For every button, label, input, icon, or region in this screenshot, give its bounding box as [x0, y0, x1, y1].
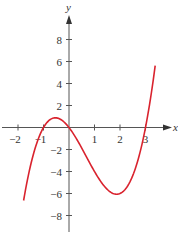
axes: [2, 22, 166, 232]
chart: x y −2−1123 8642−2−4−6−8: [0, 0, 178, 237]
y-tick-label: −4: [50, 166, 62, 178]
y-axis-label: y: [65, 1, 71, 13]
y-tick-label: 8: [57, 34, 63, 46]
y-tick-label: −2: [50, 144, 62, 156]
x-axis-label: x: [172, 121, 178, 133]
y-tick-label: 2: [57, 100, 63, 112]
y-tick-label: −8: [50, 210, 62, 222]
y-axis-arrow-icon: [66, 15, 72, 24]
x-tick-label: 2: [117, 133, 123, 145]
x-tick-label: −2: [9, 133, 21, 145]
x-tick-label: 1: [92, 133, 98, 145]
x-axis-arrow-icon: [163, 125, 172, 131]
y-tick-label: −6: [50, 188, 62, 200]
y-tick-label: 6: [57, 56, 63, 68]
y-tick-label: 4: [57, 78, 63, 90]
